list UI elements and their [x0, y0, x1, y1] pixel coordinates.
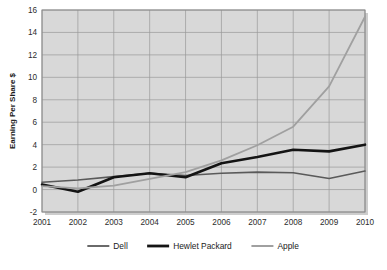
legend-item-hewlet-packard[interactable]: Hewlet Packard: [147, 241, 232, 251]
y-tick-label: 0: [32, 186, 37, 195]
chart-svg: 1614121086420-2 200120022003200420052006…: [0, 0, 387, 270]
y-axis-tick-labels: 1614121086420-2: [28, 6, 38, 217]
y-tick-label: 2: [32, 163, 37, 172]
x-tick-label: 2003: [105, 218, 124, 227]
legend-label: Hewlet Packard: [173, 241, 232, 251]
legend-label: Dell: [113, 241, 128, 251]
x-axis-tick-labels: 2001200220032004200520062007200820092010: [33, 218, 375, 227]
y-tick-label: 10: [28, 73, 38, 82]
y-tick-label: 6: [32, 118, 37, 127]
y-tick-label: 14: [28, 28, 38, 37]
x-tick-label: 2007: [248, 218, 267, 227]
x-tick-label: 2001: [33, 218, 52, 227]
x-tick-label: 2002: [69, 218, 88, 227]
x-tick-label: 2010: [356, 218, 375, 227]
plot-area-background: [42, 10, 365, 212]
legend-item-apple[interactable]: Apple: [251, 241, 299, 251]
chart-legend: DellHewlet PackardApple: [87, 241, 299, 251]
earnings-per-share-line-chart: 1614121086420-2 200120022003200420052006…: [0, 0, 387, 270]
y-tick-label: 12: [28, 51, 38, 60]
y-tick-label: 4: [32, 141, 37, 150]
y-tick-label: 8: [32, 96, 37, 105]
x-tick-label: 2005: [176, 218, 195, 227]
legend-label: Apple: [277, 241, 299, 251]
x-tick-label: 2004: [141, 218, 160, 227]
x-tick-label: 2009: [320, 218, 339, 227]
x-tick-label: 2008: [284, 218, 303, 227]
x-tick-label: 2006: [212, 218, 231, 227]
y-axis-title: Earning Per Share $: [8, 72, 17, 149]
y-tick-label: 16: [28, 6, 38, 15]
y-tick-label: -2: [30, 208, 38, 217]
legend-item-dell[interactable]: Dell: [87, 241, 128, 251]
